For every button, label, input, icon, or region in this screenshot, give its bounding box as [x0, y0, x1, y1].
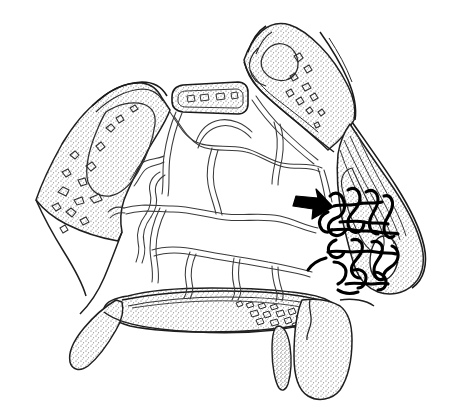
structure-perpendicular-plate — [172, 82, 248, 114]
nasal-septum-illustration — [0, 0, 473, 409]
anatomical-figure: Sagittal section of the nasal septum sho… — [0, 0, 473, 409]
